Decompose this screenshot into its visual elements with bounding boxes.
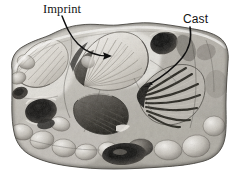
specimen-photograph: [0, 0, 232, 177]
fossil-figure: Imprint Cast: [0, 0, 232, 177]
annotation-label-cast: Cast: [183, 13, 208, 25]
annotation-label-imprint: Imprint: [43, 3, 81, 16]
